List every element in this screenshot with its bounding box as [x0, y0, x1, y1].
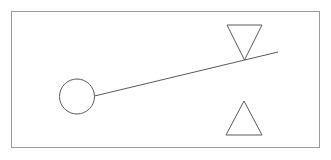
circle-weight [60, 79, 95, 114]
figure-svg [0, 0, 331, 160]
lever-beam [95, 52, 279, 96]
figure-canvas [0, 0, 331, 160]
upright-triangle [226, 101, 262, 135]
inverted-triangle [227, 25, 262, 60]
